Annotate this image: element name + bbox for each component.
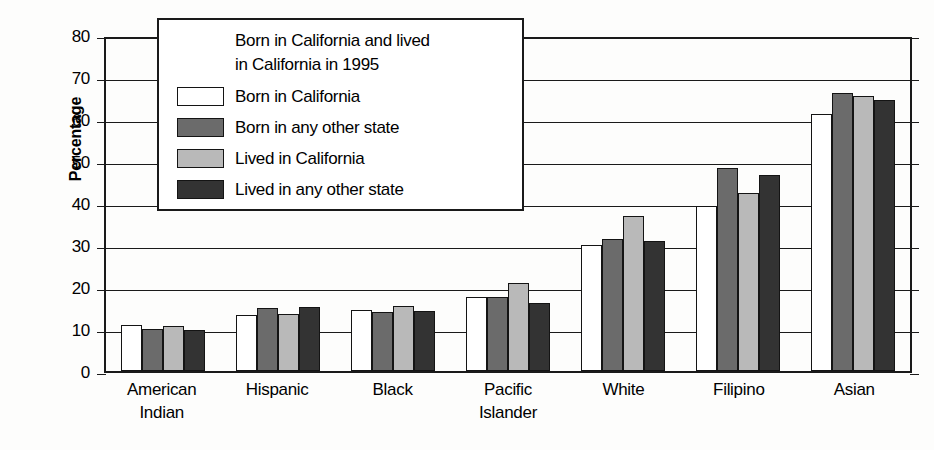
legend-title-line1: Born in California and lived <box>159 29 522 53</box>
x-axis-label-line2: Indian <box>104 401 219 424</box>
tick-mark-right-10 <box>910 332 919 333</box>
y-tick-label-0: 0 <box>32 364 90 381</box>
dark-gray-swatch <box>177 118 224 137</box>
bar <box>759 175 780 371</box>
legend-item-label: Lived in any other state <box>235 180 404 199</box>
bar <box>874 100 895 371</box>
light-gray-swatch <box>177 149 224 168</box>
y-tick-label-10: 10 <box>32 322 90 339</box>
bar <box>466 297 487 371</box>
x-axis-label: Filipino <box>681 378 796 424</box>
bar <box>738 193 759 372</box>
x-axis-label-line1: Asian <box>834 380 875 399</box>
x-axis-label-line1: American <box>127 380 196 399</box>
legend-item: Born in any other state <box>177 112 522 143</box>
legend-item: Lived in any other state <box>177 174 522 205</box>
tick-mark-right-70 <box>910 80 919 81</box>
bar <box>184 330 205 371</box>
bar <box>393 306 414 371</box>
x-axis-label: Hispanic <box>219 378 334 424</box>
bar <box>257 308 278 371</box>
bar <box>602 239 623 371</box>
x-axis-label: White <box>566 378 681 424</box>
y-tick-label-20: 20 <box>32 280 90 297</box>
x-axis-label: PacificIslander <box>450 378 565 424</box>
y-tick-label-70: 70 <box>32 70 90 87</box>
x-axis-label-line1: Pacific <box>484 380 532 399</box>
black-swatch <box>177 180 224 199</box>
legend-item: Lived in California <box>177 143 522 174</box>
y-tick-label-40: 40 <box>32 196 90 213</box>
x-axis-label-line2: Islander <box>450 401 565 424</box>
tick-mark-left-10 <box>97 332 106 333</box>
tick-mark-left-60 <box>97 122 106 123</box>
tick-mark-right-0 <box>910 374 919 375</box>
y-tick-label-50: 50 <box>32 154 90 171</box>
bar <box>121 325 142 371</box>
bar <box>487 297 508 371</box>
legend-title-line2: in California in 1995 <box>159 53 522 77</box>
tick-mark-right-60 <box>910 122 919 123</box>
bar-group <box>795 39 910 371</box>
tick-mark-right-20 <box>910 290 919 291</box>
legend-item-label: Born in California <box>235 87 360 106</box>
bar <box>832 93 853 371</box>
y-tick-label-30: 30 <box>32 238 90 255</box>
y-tick-label-60: 60 <box>32 112 90 129</box>
x-axis-label-line1: Black <box>373 380 413 399</box>
y-tick-label-80: 80 <box>32 28 90 45</box>
bar <box>853 96 874 371</box>
x-axis-label-line1: Hispanic <box>246 380 309 399</box>
x-axis-label: Asian <box>797 378 912 424</box>
tick-mark-right-30 <box>910 248 919 249</box>
tick-mark-left-80 <box>97 38 106 39</box>
legend-item-label: Born in any other state <box>235 118 399 137</box>
bar <box>414 311 435 371</box>
y-axis-title: Percentage <box>67 69 85 209</box>
bar-group <box>680 39 795 371</box>
tick-mark-left-50 <box>97 164 106 165</box>
bar <box>299 307 320 371</box>
bar <box>644 241 665 371</box>
bar <box>623 216 644 371</box>
bar <box>142 329 163 371</box>
x-axis-label: AmericanIndian <box>104 378 219 424</box>
legend-item: Born in California <box>177 81 522 112</box>
bar <box>529 303 550 371</box>
legend: Born in California and lived in Californ… <box>157 18 524 211</box>
x-axis-label-line1: White <box>602 380 644 399</box>
bar-chart: Percentage 01020304050607080 AmericanInd… <box>0 0 934 450</box>
bar <box>581 245 602 371</box>
bar <box>717 168 738 371</box>
legend-items: Born in CaliforniaBorn in any other stat… <box>159 81 522 205</box>
bar <box>278 314 299 371</box>
x-axis-label: Black <box>335 378 450 424</box>
tick-mark-right-50 <box>910 164 919 165</box>
bar <box>696 206 717 371</box>
bar <box>508 283 529 371</box>
tick-mark-right-40 <box>910 206 919 207</box>
tick-mark-left-40 <box>97 206 106 207</box>
tick-mark-left-30 <box>97 248 106 249</box>
tick-mark-left-70 <box>97 80 106 81</box>
bar <box>351 310 372 371</box>
tick-mark-left-0 <box>97 374 106 375</box>
x-axis-labels: AmericanIndianHispanicBlackPacificIsland… <box>104 378 912 424</box>
bar <box>236 315 257 371</box>
tick-mark-right-80 <box>910 38 919 39</box>
tick-mark-left-20 <box>97 290 106 291</box>
bar-group <box>565 39 680 371</box>
x-axis-label-line1: Filipino <box>713 380 764 399</box>
bar <box>372 312 393 371</box>
bar <box>163 326 184 371</box>
white-swatch <box>177 87 224 106</box>
legend-item-label: Lived in California <box>235 149 364 168</box>
bar <box>811 114 832 371</box>
